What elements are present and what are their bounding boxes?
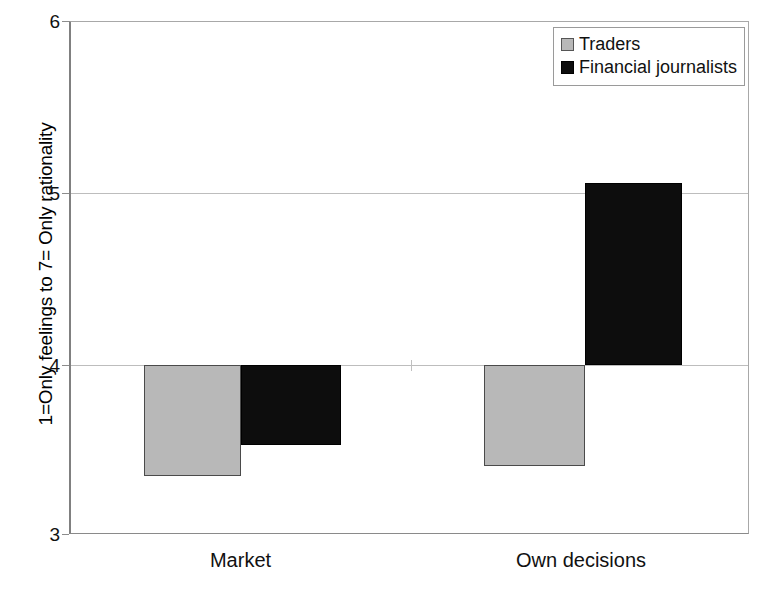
x-category-label-own-decisions: Own decisions: [482, 549, 680, 571]
bar-own-decisions-traders[interactable]: [484, 365, 585, 466]
black-square-swatch-icon: [561, 61, 574, 74]
bar-chart: 1=Only feelings to 7= Only rationality 6…: [0, 0, 760, 594]
bar-market-financial-journalists[interactable]: [241, 365, 341, 445]
category-separator-tick: [411, 360, 412, 371]
legend-label-traders: Traders: [579, 35, 640, 54]
y-tick-mark-6: [62, 21, 69, 22]
gray-square-swatch-icon: [561, 38, 574, 51]
legend: Traders Financial journalists: [553, 27, 745, 86]
y-tick-mark-3: [62, 534, 69, 535]
bar-own-decisions-financial-journalists[interactable]: [585, 183, 682, 365]
legend-item-financial-journalists[interactable]: Financial journalists: [561, 56, 737, 79]
x-category-label-market: Market: [142, 549, 339, 571]
y-axis-title: 1=Only feelings to 7= Only rationality: [35, 24, 57, 524]
y-tick-mark-4: [62, 365, 69, 366]
plot-area: [69, 21, 749, 534]
y-tick-label-3: 3: [28, 525, 60, 544]
legend-label-financial-journalists: Financial journalists: [579, 58, 737, 77]
legend-item-traders[interactable]: Traders: [561, 33, 737, 56]
y-tick-mark-5: [62, 193, 69, 194]
bar-market-traders[interactable]: [144, 365, 241, 476]
